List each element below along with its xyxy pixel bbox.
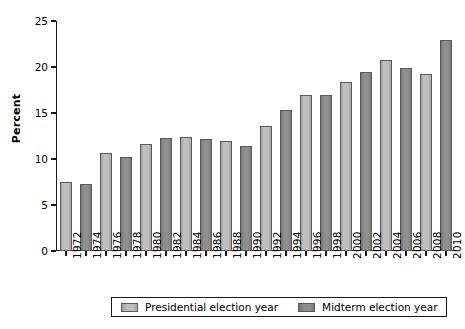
x-tick-1978 [125,251,126,256]
bar-chart-figure: Percent 0510152025 197219741976197819801… [0,0,465,329]
x-tick-1984 [185,251,186,256]
x-tick-2004 [385,251,386,256]
x-tick-label-2000: 2000 [351,231,363,259]
bar-1994 [280,110,292,251]
x-tick-1988 [225,251,226,256]
x-tick-label-1974: 1974 [91,231,103,259]
x-tick-label-1984: 1984 [191,231,203,259]
x-tick-label-1978: 1978 [131,231,143,259]
x-tick-1982 [165,251,166,256]
legend-swatch-midterm-icon [298,303,315,312]
x-tick-label-2008: 2008 [431,231,443,259]
legend-label-presidential: Presidential election year [145,301,278,313]
x-tick-label-1990: 1990 [251,231,263,259]
bar-2006 [400,68,412,251]
chart-legend: Presidential election year Midterm elect… [111,297,447,317]
y-axis-title: Percent [10,79,23,159]
x-tick-label-2006: 2006 [411,231,423,259]
x-tick-label-1994: 1994 [291,231,303,259]
x-tick-label-1986: 1986 [211,231,223,259]
x-tick-label-2010: 2010 [451,231,463,259]
x-tick-2000 [345,251,346,256]
x-tick-1998 [325,251,326,256]
legend-item-midterm: Midterm election year [298,301,437,313]
y-tick-label-0: 0 [41,245,48,257]
bar-1998 [320,95,332,251]
bar-2002 [360,72,372,251]
bar-1996 [300,95,312,251]
x-tick-label-2004: 2004 [391,231,403,259]
x-tick-1994 [285,251,286,256]
bars-layer [56,21,456,251]
bar-2008 [420,74,432,251]
x-tick-1992 [265,251,266,256]
x-tick-label-1976: 1976 [111,231,123,259]
x-tick-label-1982: 1982 [171,231,183,259]
x-tick-label-1992: 1992 [271,231,283,259]
x-tick-label-1972: 1972 [71,231,83,259]
x-tick-1974 [85,251,86,256]
x-tick-1996 [305,251,306,256]
y-tick-label-15: 15 [35,107,48,119]
x-tick-2010 [445,251,446,256]
y-tick-label-20: 20 [35,61,48,73]
x-tick-2002 [365,251,366,256]
x-tick-label-1988: 1988 [231,231,243,259]
x-tick-label-1998: 1998 [331,231,343,259]
x-tick-1980 [145,251,146,256]
x-tick-2008 [425,251,426,256]
bar-2010 [440,40,452,251]
bar-2000 [340,82,352,251]
y-tick-label-5: 5 [41,199,48,211]
bar-2004 [380,60,392,251]
x-tick-label-1980: 1980 [151,231,163,259]
plot-area: 0510152025 [56,21,456,251]
x-tick-1990 [245,251,246,256]
legend-item-presidential: Presidential election year [121,301,278,313]
legend-swatch-presidential-icon [121,303,138,312]
x-tick-label-2002: 2002 [371,231,383,259]
x-tick-1986 [205,251,206,256]
x-tick-1972 [65,251,66,256]
y-tick-label-25: 25 [35,15,48,27]
y-tick-label-10: 10 [35,153,48,165]
legend-label-midterm: Midterm election year [322,301,437,313]
x-tick-2006 [405,251,406,256]
x-tick-1976 [105,251,106,256]
x-tick-label-1996: 1996 [311,231,323,259]
